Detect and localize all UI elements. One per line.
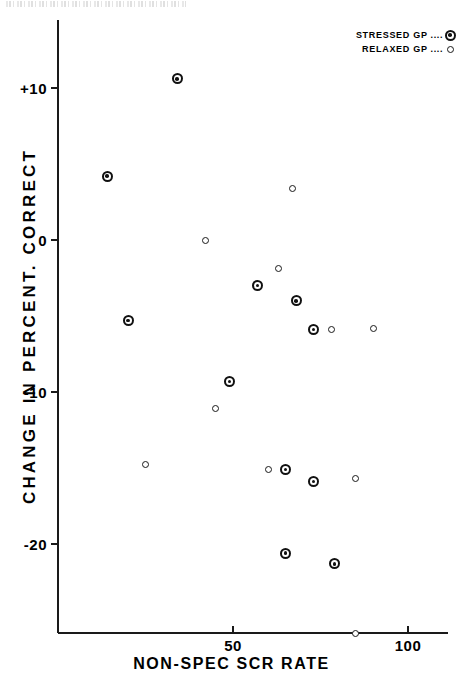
data-point-undefined [202, 237, 209, 244]
y-axis-title: CHANGE IN PERCENT. CORRECT [20, 146, 40, 506]
y-tick-mark [51, 87, 58, 89]
legend-marker-glyph [445, 30, 456, 41]
legend-leader-dots: .... [431, 44, 443, 54]
data-point-undefined [280, 464, 291, 475]
data-point-undefined [172, 73, 183, 84]
x-tick-label: 50 [224, 637, 242, 654]
plot-area [58, 20, 458, 633]
legend-marker-open-circle-icon [445, 44, 455, 54]
y-tick-label: -20 [0, 536, 47, 553]
legend-entry-relaxed: RELAXED GP.... [356, 42, 455, 56]
y-tick-mark [51, 391, 58, 393]
legend-marker-bullseye-circle-icon [445, 30, 455, 40]
data-point-undefined [289, 185, 296, 192]
data-point-undefined [224, 376, 235, 387]
data-point-undefined [352, 630, 359, 637]
data-point-undefined [291, 295, 302, 306]
data-point-undefined [370, 325, 377, 332]
legend-label: STRESSED GP [356, 30, 428, 40]
data-point-undefined [102, 171, 113, 182]
y-tick-label: +10 [0, 80, 47, 97]
x-tick-label: 100 [395, 637, 422, 654]
y-tick-mark [51, 239, 58, 241]
data-point-undefined [280, 548, 291, 559]
y-tick-mark [51, 543, 58, 545]
legend-marker-glyph [447, 46, 454, 53]
legend-leader-dots: .... [431, 30, 443, 40]
chart-legend: STRESSED GP....RELAXED GP.... [356, 28, 455, 56]
scan-artifact-strip: illegible scan header text [6, 1, 186, 7]
data-point-undefined [123, 315, 134, 326]
x-axis-title: NON-SPEC SCR RATE [0, 655, 463, 673]
data-point-undefined [265, 466, 272, 473]
legend-label: RELAXED GP [362, 44, 428, 54]
data-point-undefined [328, 326, 335, 333]
scatter-plot-figure: illegible scan header text +100-10-20 50… [0, 0, 463, 685]
legend-entry-stressed: STRESSED GP.... [356, 28, 455, 42]
